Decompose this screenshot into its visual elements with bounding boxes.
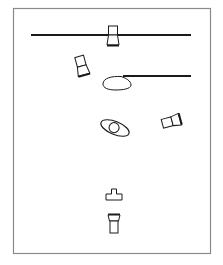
light-fixture-top-icon (107, 26, 119, 46)
table-ellipse-shape (103, 76, 131, 90)
light-fixture-bottom-icon (108, 215, 120, 234)
lighting-diagram (0, 0, 223, 265)
